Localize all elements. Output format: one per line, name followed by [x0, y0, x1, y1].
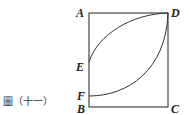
- arc-e-to-d: [89, 13, 168, 62]
- label-e: E: [75, 60, 84, 74]
- arc-f-to-d: [89, 13, 168, 96]
- label-b: B: [76, 102, 85, 115]
- label-a: A: [75, 6, 84, 20]
- geometry-figure: A D E F B C 圖（十一）: [0, 0, 191, 115]
- label-f: F: [76, 89, 85, 103]
- label-d: D: [170, 6, 180, 20]
- square-abcd: [89, 13, 168, 107]
- label-c: C: [171, 102, 180, 115]
- figure-caption: 圖（十一）: [3, 95, 53, 107]
